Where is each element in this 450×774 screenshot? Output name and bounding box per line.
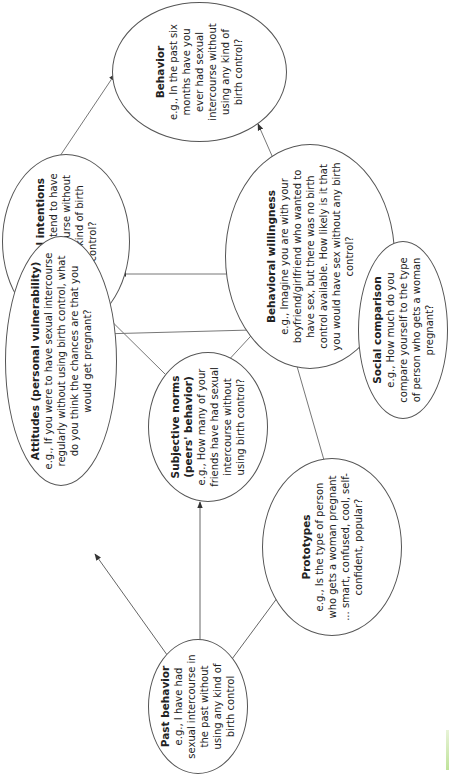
- node-norms-title: Subjective norms (peers' behavior): [169, 367, 195, 487]
- node-past-body: e.g., I have had sexual intercourse in t…: [172, 654, 237, 759]
- node-past-title: Past behavior: [159, 666, 172, 747]
- node-social-comparison: Social comparison e.g., How much do you …: [358, 241, 448, 419]
- node-willingness-title: Behavioral willingness: [265, 190, 278, 323]
- node-prototypes-title: Prototypes: [300, 514, 313, 579]
- node-attitudes-title: Attitudes (personal vulnerability): [29, 262, 42, 460]
- node-behavior-title: Behavior: [154, 46, 167, 99]
- node-social-title: Social comparison: [371, 276, 384, 384]
- node-prototypes-body: e.g., Is the type of person who gets a w…: [313, 473, 365, 621]
- diagram-canvas: Behavior e.g., In the past six months ha…: [0, 0, 450, 774]
- node-attitudes-body: e.g., If you were to have sexual interco…: [42, 251, 94, 471]
- edge-intentions-behavior: [60, 74, 115, 156]
- node-willingness-body: e.g., Imagine you are with your boyfrien…: [278, 159, 356, 354]
- edge-artifact: [446, 730, 449, 770]
- node-behavior: Behavior e.g., In the past six months ha…: [112, 2, 287, 142]
- node-past-behavior: Past behavior e.g., I have had sexual in…: [148, 639, 248, 774]
- node-norms-body: e.g., How many of your friends have had …: [195, 367, 247, 487]
- node-attitudes: Attitudes (personal vulnerability) e.g.,…: [5, 236, 117, 486]
- node-behavior-body: e.g., In the past six months have you ev…: [167, 17, 245, 127]
- node-prototypes: Prototypes e.g., Is the type of person w…: [262, 458, 402, 636]
- node-social-body: e.g., How much do you compare yourself t…: [384, 256, 436, 404]
- node-subjective-norms: Subjective norms (peers' behavior) e.g.,…: [148, 352, 268, 502]
